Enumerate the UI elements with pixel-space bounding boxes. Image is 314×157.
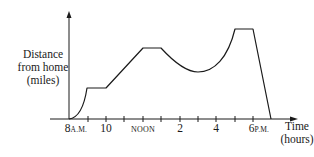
tick-label-6pm: 6P.M. bbox=[249, 122, 269, 134]
y-axis-arrow-icon bbox=[67, 11, 72, 18]
x-axis-label-line-2: (hours) bbox=[277, 133, 314, 146]
y-axis-label-line-3: (miles) bbox=[14, 74, 72, 87]
x-axis-label-line-1: Time bbox=[277, 120, 314, 133]
tick-label-noon: NOON bbox=[131, 125, 155, 134]
distance-curve bbox=[69, 29, 271, 119]
tick-label-4: 4 bbox=[213, 122, 219, 134]
x-axis-label: Time (hours) bbox=[277, 120, 314, 146]
y-axis-label: Distance from home (miles) bbox=[14, 48, 72, 87]
tick-label-10: 10 bbox=[100, 122, 112, 134]
tick-label-8am: 8A.M. bbox=[65, 122, 87, 134]
tick-label-6pm-suffix: P.M. bbox=[255, 125, 270, 134]
y-axis-label-line-1: Distance bbox=[14, 48, 72, 61]
tick-label-2: 2 bbox=[177, 122, 183, 134]
y-axis-label-line-2: from home bbox=[14, 61, 72, 74]
tick-label-8am-suffix: A.M. bbox=[71, 125, 88, 134]
